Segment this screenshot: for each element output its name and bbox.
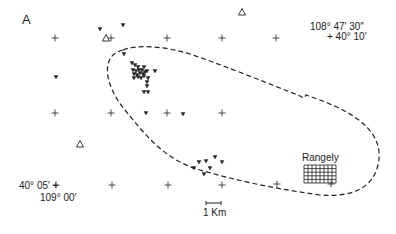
- grid-cross-icon: [273, 35, 280, 42]
- earthquake-marker-icon: [145, 81, 149, 85]
- earthquake-marker-icon: [197, 161, 201, 165]
- earthquake-marker-icon: [142, 91, 146, 95]
- grid-cross-icon: [328, 181, 335, 188]
- bottom-left-latitude-label: 40° 05′ +: [19, 180, 59, 191]
- grid-cross-icon: [52, 110, 59, 117]
- station-triangle-icon: [77, 141, 84, 148]
- grid-cross-icon: [219, 110, 226, 117]
- earthquake-marker-icon: [121, 24, 125, 28]
- earthquake-marker-icon: [144, 112, 148, 116]
- grid-cross-icon: [108, 110, 115, 117]
- earthquake-marker-icon: [132, 77, 136, 81]
- earthquake-marker-icon: [122, 53, 126, 57]
- earthquake-marker-icon: [146, 91, 150, 95]
- field-boundary-dashed-line: [107, 47, 379, 196]
- earthquake-marker-icon: [54, 76, 58, 80]
- panel-label: A: [22, 14, 31, 25]
- earthquake-marker-icon: [204, 160, 208, 164]
- seismic-stations: [77, 9, 246, 148]
- station-triangle-icon: [239, 9, 246, 16]
- earthquake-marker-icon: [181, 113, 185, 117]
- rangely-town-grid-icon: [304, 165, 336, 183]
- grid-cross-icon: [274, 181, 281, 188]
- earthquake-marker-icon: [98, 28, 102, 32]
- earthquake-marker-icon: [145, 85, 149, 89]
- seismicity-map: A 108° 47′ 30″ + 40° 10′ 40° 05′ + 109° …: [0, 0, 396, 234]
- town-label-rangely: Rangely: [302, 152, 339, 163]
- earthquake-marker-icon: [192, 167, 196, 171]
- earthquake-marker-icon: [213, 156, 217, 160]
- earthquake-marker-icon: [139, 77, 143, 81]
- top-right-latitude-label: + 40° 10′: [327, 31, 367, 42]
- grid-cross-icon: [219, 35, 226, 42]
- earthquake-marker-icon: [220, 161, 224, 165]
- grid-cross-icon: [109, 182, 116, 189]
- bottom-left-longitude-label: 109° 00′: [40, 192, 76, 203]
- earthquake-marker-icon: [202, 173, 206, 177]
- grid-cross-icon: [165, 182, 172, 189]
- grid-cross-icon: [164, 110, 171, 117]
- grid-cross-icon: [108, 35, 115, 42]
- grid-cross-icon: [52, 35, 59, 42]
- lat-lon-grid-crosses: [52, 35, 335, 189]
- earthquake-marker-icon: [153, 70, 157, 74]
- scale-bar-label: 1 Km: [203, 207, 226, 218]
- earthquake-marker-icon: [208, 167, 212, 171]
- scale-bar: [206, 201, 221, 205]
- grid-cross-icon: [219, 182, 226, 189]
- earthquake-marker-icon: [146, 77, 150, 81]
- grid-cross-icon: [164, 35, 171, 42]
